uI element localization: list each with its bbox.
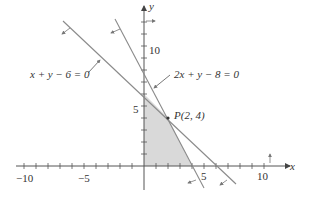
leader-arrow-icon xyxy=(154,75,170,88)
halfplane-arrow-icon xyxy=(62,28,70,34)
halfplane-arrow-icon xyxy=(220,180,227,185)
y-tick-label-10: 10 xyxy=(149,44,161,56)
x-tick-label-5: 5 xyxy=(201,170,207,182)
leader-arrow-icon xyxy=(88,60,100,73)
intersection-point xyxy=(166,116,169,119)
halfplane-arrow-icon xyxy=(188,180,196,183)
x-tick-label-neg10: −10 xyxy=(16,172,34,184)
x-tick-label-neg5: −5 xyxy=(78,172,90,184)
point-label: P(2, 4) xyxy=(173,109,205,122)
halfplane-arrow-icon xyxy=(111,29,120,33)
x-tick-label-10: 10 xyxy=(257,170,269,182)
feasible-region-diagram: −10 −5 5 10 5 10 x y x + y − 6 = 0 2x + … xyxy=(0,0,315,198)
y-axis-label: y xyxy=(148,0,154,12)
x-axis-label: x xyxy=(289,160,295,172)
y-tick-label-5: 5 xyxy=(133,103,139,115)
equation-label-line-2: 2x + y − 8 = 0 xyxy=(174,68,240,80)
equation-label-line-1: x + y − 6 = 0 xyxy=(29,68,90,80)
